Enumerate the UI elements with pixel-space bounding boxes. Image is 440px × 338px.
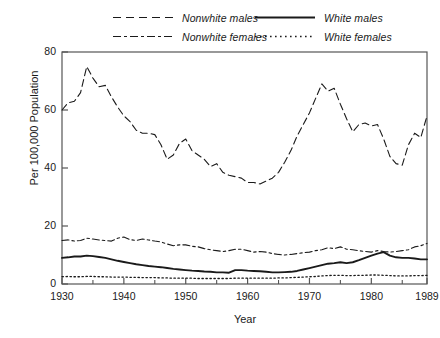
chart-figure: Nonwhite males Nonwhite females White ma… [0, 0, 440, 338]
plot-area [0, 0, 440, 338]
series-line-white-females [62, 275, 427, 278]
series-line-nonwhite-females [62, 237, 427, 255]
series-line-white-males [62, 252, 427, 273]
series-line-nonwhite-males [62, 67, 427, 184]
plot-frame [62, 52, 427, 284]
